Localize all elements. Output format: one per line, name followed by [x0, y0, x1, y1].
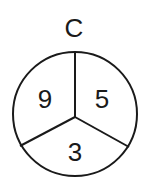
segment-right-value: 5 [87, 86, 117, 112]
segment-bottom-value: 3 [60, 139, 90, 165]
segment-left-value: 9 [30, 86, 60, 112]
diagram-title: C [54, 15, 94, 41]
